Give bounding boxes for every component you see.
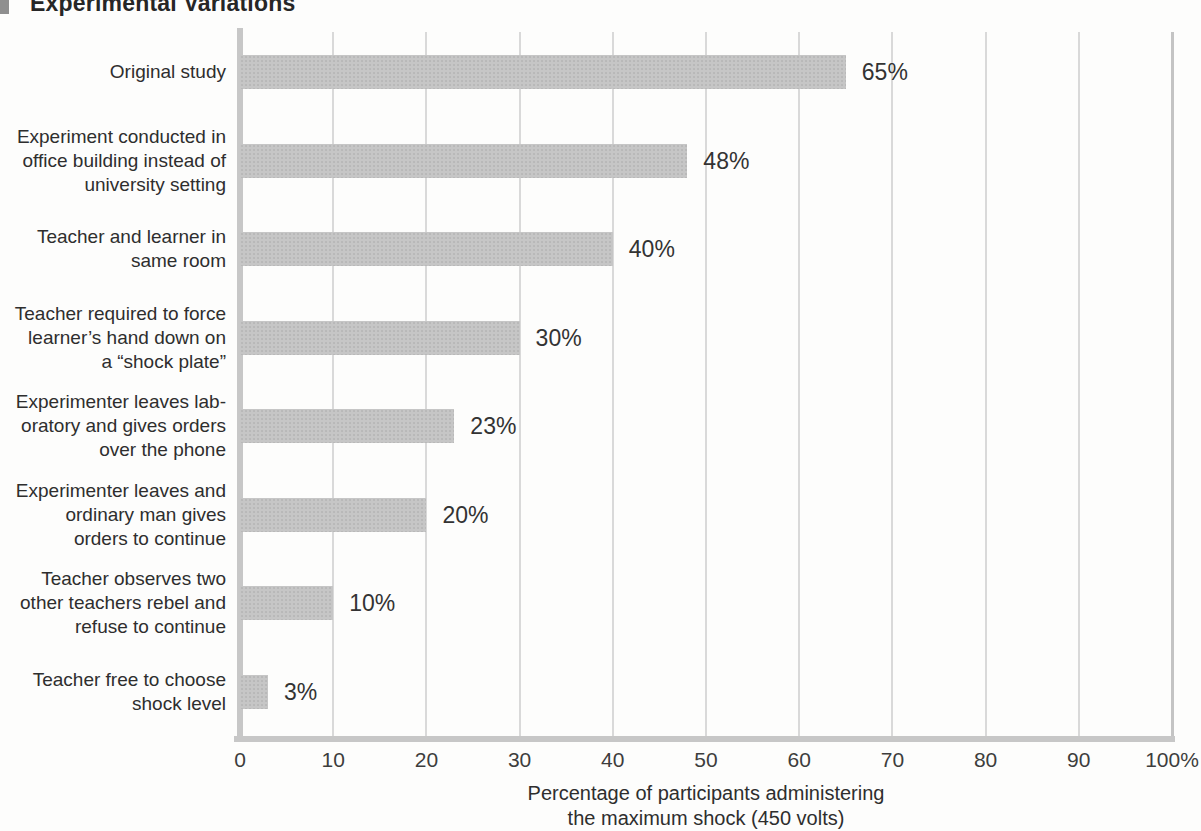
bar-track: 20% [240,471,1172,560]
bar-shock-plate [240,321,520,355]
x-tick: 50 [694,748,717,772]
x-axis-ticks: 0 10 20 30 40 50 60 70 80 90 100% [240,748,1172,772]
bar-ordinary-man [240,498,426,532]
value-label: 30% [536,324,582,351]
value-label: 40% [629,236,675,263]
bar-row: Teacher free to choose shock level 3% [0,648,1201,737]
bar-track: 65% [240,28,1172,117]
bar-office-building [240,144,687,178]
bar-teachers-rebel [240,586,333,620]
category-label: Teacher and learner in same room [0,225,240,273]
x-axis-line [234,736,1175,742]
category-label: Experiment conducted in office building … [0,125,240,197]
x-tick: 80 [974,748,997,772]
x-tick: 30 [508,748,531,772]
category-label: Teacher free to choose shock level [0,668,240,716]
bar-track: 10% [240,559,1172,648]
bar-track: 23% [240,382,1172,471]
figure-title: Experimental Variations [30,0,295,17]
x-tick: 20 [415,748,438,772]
bar-row: Experimenter leaves lab- oratory and giv… [0,382,1201,471]
milgram-variations-figure: Experimental Variations Original study 6… [0,0,1201,831]
bar-row: Teacher and learner in same room 40% [0,205,1201,294]
category-label: Experimenter leaves and ordinary man giv… [0,479,240,551]
bar-track: 40% [240,205,1172,294]
page-edge-mark [0,0,9,14]
bar-original-study [240,55,846,89]
x-tick: 0 [234,748,246,772]
value-label: 48% [703,147,749,174]
category-label: Original study [0,60,240,84]
bar-row: Teacher observes two other teachers rebe… [0,559,1201,648]
category-label: Teacher observes two other teachers rebe… [0,567,240,639]
x-tick: 70 [881,748,904,772]
value-label: 10% [349,590,395,617]
bar-same-room [240,232,613,266]
bar-track: 48% [240,117,1172,206]
value-label: 3% [284,678,317,705]
x-tick: 60 [788,748,811,772]
value-label: 20% [442,501,488,528]
bar-row: Experiment conducted in office building … [0,117,1201,206]
bar-orders-by-phone [240,409,454,443]
value-label: 65% [862,59,908,86]
bar-row: Original study 65% [0,28,1201,117]
x-tick: 90 [1067,748,1090,772]
x-tick: 10 [322,748,345,772]
x-axis-label: Percentage of participants administering… [240,781,1172,831]
x-tick: 100% [1145,748,1199,772]
bar-row: Teacher required to force learner’s hand… [0,294,1201,383]
bar-rows: Original study 65% Experiment conducted … [0,28,1201,736]
x-tick: 40 [601,748,624,772]
bar-track: 3% [240,648,1172,737]
bar-free-choice [240,675,268,709]
bar-track: 30% [240,294,1172,383]
bar-row: Experimenter leaves and ordinary man giv… [0,471,1201,560]
category-label: Experimenter leaves lab- oratory and giv… [0,390,240,462]
value-label: 23% [470,413,516,440]
category-label: Teacher required to force learner’s hand… [0,302,240,374]
